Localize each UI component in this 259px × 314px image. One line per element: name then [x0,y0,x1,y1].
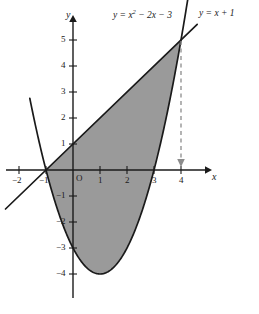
y-tick-label--1: −1 [56,191,66,200]
y-tick-label-1: 1 [61,139,66,148]
x-tick-label-3: 3 [152,176,157,185]
x-tick-label-2: 2 [125,176,130,185]
y-tick-label-4: 4 [61,61,66,70]
x-tick-label-4: 4 [179,176,184,185]
y-tick-label--3: −3 [56,243,66,252]
y-tick-label-5: 5 [61,35,66,44]
y-tick-label--2: −2 [56,217,66,226]
x-tick-label-1: 1 [98,176,103,185]
x-axis-label: x [212,172,216,182]
x-tick-label--2: −2 [12,176,22,185]
y-tick-label-3: 3 [61,87,66,96]
parabola-equation-label: y = x2 − 2x − 3 [113,9,172,21]
x-tick-label--1: −1 [39,176,49,185]
x-axis-arrowhead [205,166,212,174]
y-tick-label--4: −4 [56,269,66,278]
coordinate-plot [0,0,259,314]
graph-figure: y = x2 − 2x − 3 y = x + 1 y x O −2 −1 1 … [0,0,259,314]
origin-label: O [76,174,83,183]
y-tick-label-2: 2 [61,113,66,122]
y-axis-label: y [66,10,70,20]
line-equation-label: y = x + 1 [199,9,235,19]
dashed-line-arrowhead [177,159,185,167]
